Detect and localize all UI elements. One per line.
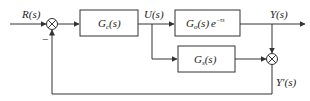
smith-predictor-diagram: R(s) − Gc(s) U(s) Go(s)e−τs Y(s) Gs(s) Y… xyxy=(0,0,310,101)
output-label: Y(s) xyxy=(270,8,288,21)
controller-label: Gc(s) xyxy=(98,17,121,31)
input-label: R(s) xyxy=(21,8,41,21)
compensator-label: Gs(s) xyxy=(194,53,217,67)
feedback-line xyxy=(52,30,272,94)
compensator-branch-line xyxy=(152,24,177,59)
minus-sign: − xyxy=(42,33,48,45)
error-summing-junction xyxy=(47,19,58,30)
output-summing-junction xyxy=(267,54,278,65)
feedback-label: Y'(s) xyxy=(276,76,296,89)
control-label: U(s) xyxy=(144,8,164,21)
